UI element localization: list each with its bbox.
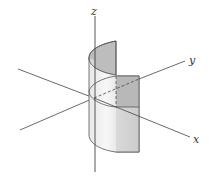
- x-axis-negative: [18, 69, 94, 98]
- surface-right-panel-lower: [116, 107, 139, 152]
- x-axis-label: x: [193, 133, 200, 146]
- axes-back: [18, 69, 94, 130]
- half-cylinder-diagram: z y x: [0, 0, 212, 183]
- z-axis-label: z: [90, 5, 97, 18]
- y-axis-label: y: [188, 54, 196, 67]
- y-axis-negative: [20, 98, 94, 130]
- y-axis-positive: [139, 61, 185, 79]
